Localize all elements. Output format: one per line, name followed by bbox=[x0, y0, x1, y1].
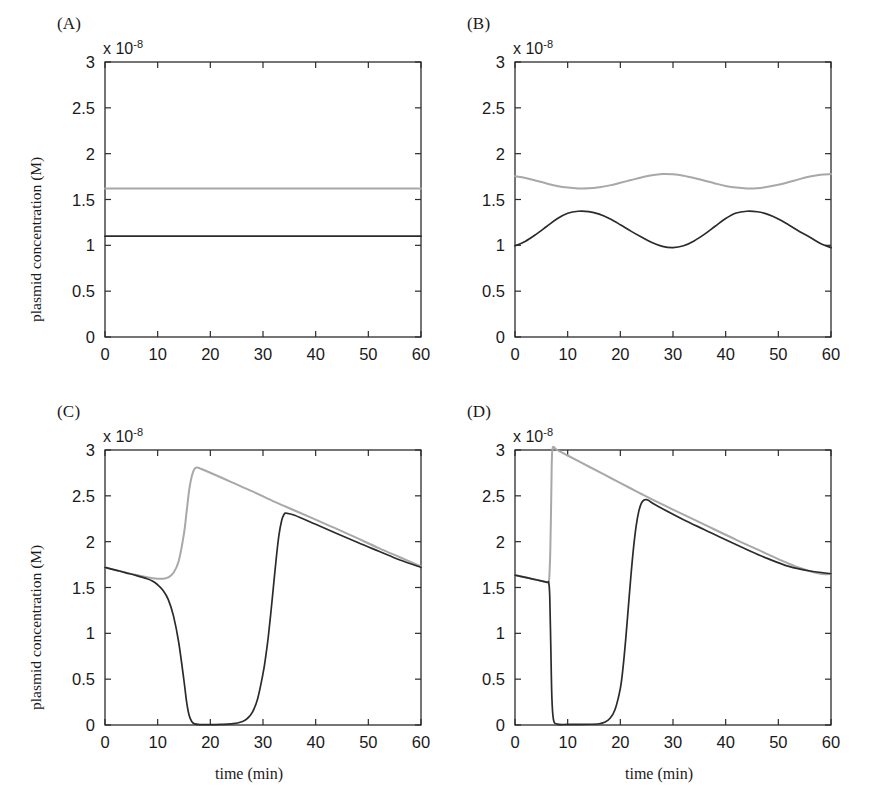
y-tick-label: 0 bbox=[496, 716, 505, 734]
y-tick-label: 2 bbox=[496, 533, 505, 551]
y-tick-label: 3 bbox=[496, 441, 505, 459]
x-tick-label: 20 bbox=[611, 733, 629, 751]
x-tick-label: 0 bbox=[510, 733, 519, 751]
x-tick-label: 30 bbox=[664, 733, 682, 751]
y-tick-label: 1.5 bbox=[482, 579, 505, 597]
x-tick-label: 50 bbox=[769, 733, 787, 751]
plot-area-d: 010203040506000.511.522.53 bbox=[0, 0, 882, 799]
y-tick-label: 0.5 bbox=[482, 670, 505, 688]
x-tick-label: 40 bbox=[716, 733, 734, 751]
figure-root: (A)x 10-8plasmid concentration (M)010203… bbox=[0, 0, 882, 799]
series-line-black bbox=[515, 500, 831, 725]
y-tick-label: 2.5 bbox=[482, 487, 505, 505]
y-tick-label: 1 bbox=[496, 624, 505, 642]
x-tick-label: 60 bbox=[822, 733, 840, 751]
plot-box bbox=[515, 450, 831, 725]
x-tick-label: 10 bbox=[558, 733, 576, 751]
